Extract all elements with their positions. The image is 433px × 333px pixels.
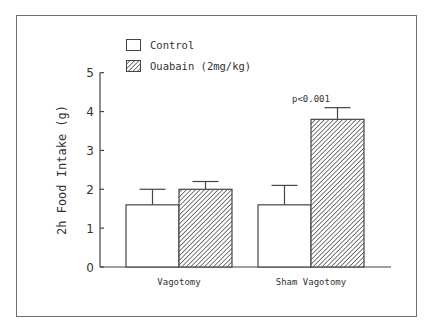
legend-item-control: Control <box>127 39 195 51</box>
significance-annotation: p<0.001 <box>292 94 330 104</box>
y-tick-label: 3 <box>86 144 94 158</box>
y-tick-label: 2 <box>86 183 94 197</box>
legend-label-control: Control <box>150 39 194 51</box>
y-tick-label: 5 <box>86 66 94 80</box>
bar-group <box>311 108 364 267</box>
bar <box>258 205 311 267</box>
y-axis-label: 2h Food Intake (g) <box>55 105 69 235</box>
legend: Control Ouabain (2mg/kg) <box>127 39 252 72</box>
bar-group <box>179 182 232 267</box>
y-axis: 012345 <box>86 66 104 274</box>
legend-swatch-control <box>127 40 141 51</box>
x-tick-label-vagotomy: Vagotomy <box>157 277 201 287</box>
legend-swatch-ouabain <box>127 61 141 72</box>
bar-group <box>258 185 311 267</box>
bar <box>126 205 179 267</box>
legend-item-ouabain: Ouabain (2mg/kg) <box>127 60 252 72</box>
bar-chart: Control Ouabain (2mg/kg) 2h Food Intake … <box>0 0 433 333</box>
y-tick-label: 1 <box>86 222 94 236</box>
y-tick-label: 4 <box>86 105 94 119</box>
y-tick-label: 0 <box>86 261 94 275</box>
bar-group <box>126 189 179 267</box>
bar <box>311 119 364 267</box>
legend-label-ouabain: Ouabain (2mg/kg) <box>150 60 251 72</box>
bars <box>126 108 364 267</box>
bar <box>179 189 232 267</box>
x-tick-label-sham-vagotomy: Sham Vagotomy <box>276 277 347 287</box>
